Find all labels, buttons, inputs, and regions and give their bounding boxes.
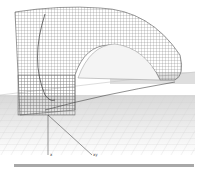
axis-label-x: x	[50, 152, 52, 157]
axis-label-xy: xy	[93, 152, 98, 157]
bottom-bar	[14, 164, 194, 167]
wireframe-diagram	[0, 0, 208, 169]
